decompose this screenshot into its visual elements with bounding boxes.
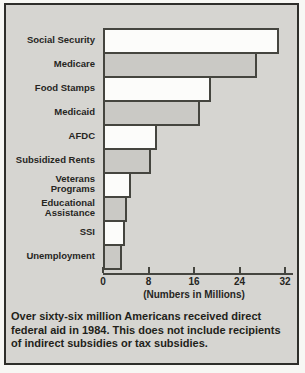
bar-label-unemployment: Unemployment: [6, 244, 98, 268]
bar-label-ssi: SSI: [6, 220, 98, 244]
bar-afdc: [103, 124, 157, 150]
bar-label-afdc: AFDC: [6, 124, 98, 148]
x-tick-label-32: 32: [279, 276, 290, 287]
bar-label-subsidized-rents: Subsidized Rents: [6, 148, 98, 172]
figure-caption: Over sixty-six million Americans receive…: [11, 310, 294, 351]
chart-panel: Social SecurityMedicareFood StampsMedica…: [4, 3, 299, 365]
bar-medicare: [103, 52, 257, 78]
bar-label-veterans-programs: Veterans Programs: [6, 172, 98, 196]
bar-ssi: [103, 220, 125, 246]
bar-label-educational-assistance: Educational Assistance: [6, 196, 98, 220]
x-tick-8: [148, 267, 150, 273]
x-tick-32: [284, 267, 286, 273]
bar-veterans-programs: [103, 172, 131, 198]
x-tick-label-0: 0: [100, 276, 106, 287]
bar-label-food-stamps: Food Stamps: [6, 76, 98, 100]
x-tick-label-8: 8: [146, 276, 152, 287]
x-axis-line: [103, 273, 293, 275]
x-tick-label-16: 16: [188, 276, 199, 287]
x-tick-0: [102, 267, 104, 273]
bar-educational-assistance: [103, 196, 127, 222]
bar-subsidized-rents: [103, 148, 151, 174]
bar-social-security: [103, 28, 279, 54]
bar-label-medicaid: Medicaid: [6, 100, 98, 124]
x-tick-label-24: 24: [234, 276, 245, 287]
bar-food-stamps: [103, 76, 211, 102]
bar-unemployment: [103, 244, 122, 270]
bar-label-medicare: Medicare: [6, 52, 98, 76]
x-axis-title: (Numbers in Millions): [103, 289, 285, 300]
bar-label-social-security: Social Security: [6, 28, 98, 52]
x-tick-24: [239, 267, 241, 273]
x-tick-16: [193, 267, 195, 273]
bar-medicaid: [103, 100, 200, 126]
